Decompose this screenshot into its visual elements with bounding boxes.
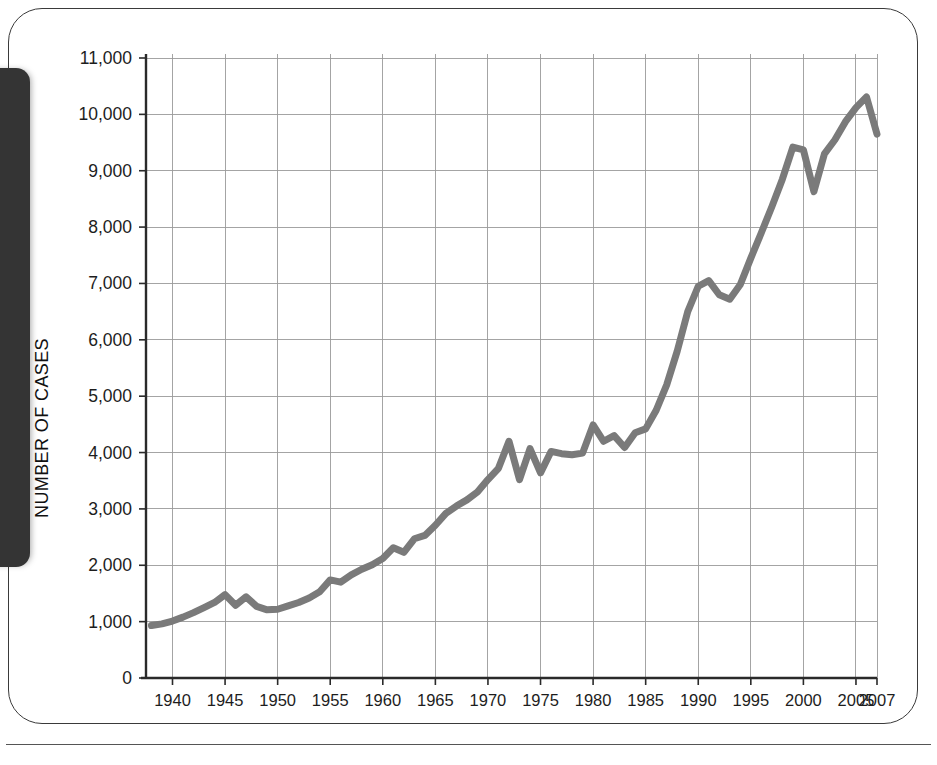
chapter-tab bbox=[0, 68, 30, 567]
figure-frame bbox=[8, 8, 918, 724]
page-bottom-rule bbox=[6, 744, 931, 745]
